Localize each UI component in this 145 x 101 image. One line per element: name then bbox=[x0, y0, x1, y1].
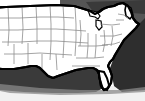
us-map-svg bbox=[0, 0, 145, 101]
us-map-figure: Map of the contiguous United States Cont… bbox=[0, 0, 145, 101]
